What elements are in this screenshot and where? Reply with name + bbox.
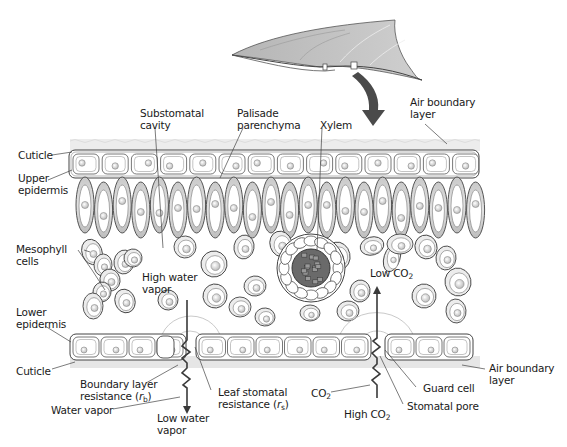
label-upper-epidermis: Upper epidermis (18, 172, 68, 196)
label-boundary-resistance-close: ) (148, 390, 152, 402)
lower-epidermis (70, 334, 473, 360)
label-air-boundary-top: Air boundary layer (410, 96, 475, 120)
label-palisade-line1: Palisade (237, 107, 279, 119)
label-leaf-stomatal-resistance: Leaf stomatal resistance (rs) (218, 386, 289, 410)
label-substomatal-cavity: Substomatal cavity (140, 107, 204, 131)
label-stomatal-resistance-line2: resistance ( (218, 398, 277, 410)
upper-air-boundary-layer (70, 139, 480, 151)
label-palisade-parenchyma: Palisade parenchyma (237, 107, 301, 131)
label-mesophyll-cells: Mesophyll cells (16, 243, 67, 267)
label-stomatal-pore: Stomatal pore (407, 400, 479, 412)
label-guard-cell: Guard cell (423, 382, 474, 394)
label-boundary-resistance-line1: Boundary layer (80, 378, 157, 390)
label-stomatal-resistance-line1: Leaf stomatal (218, 386, 287, 398)
palisade-parenchyma (76, 177, 485, 238)
label-low-water-line1: Low water (157, 412, 209, 424)
label-stomatal-resistance-close: ) (285, 398, 289, 410)
label-high-water-vapor: High water vapor (142, 271, 197, 295)
mesophyll-cells (78, 228, 473, 327)
label-high-water-line2: vapor (142, 283, 171, 295)
label-co2-subscript: 2 (326, 392, 331, 401)
label-substomatal-line1: Substomatal (140, 107, 204, 119)
label-substomatal-line2: cavity (140, 119, 170, 131)
zoom-arrow-icon (352, 72, 385, 126)
label-co2-text: CO (311, 387, 326, 399)
label-mesophyll-line2: cells (16, 255, 39, 267)
label-cuticle-bottom: Cuticle (16, 365, 51, 377)
label-low-co2-text: Low CO (370, 267, 408, 279)
label-air-boundary-bottom: Air boundary layer (489, 362, 554, 386)
label-mesophyll-line1: Mesophyll (16, 243, 67, 255)
label-water-vapor: Water vapor (51, 404, 113, 416)
co2-pathway (372, 290, 380, 398)
label-low-water-line2: vapor (157, 424, 186, 436)
label-xylem: Xylem (320, 119, 352, 131)
label-high-co2-subscript: 2 (386, 413, 391, 422)
label-air-boundary-bottom-line1: Air boundary (489, 362, 554, 374)
label-air-boundary-top-line2: layer (410, 108, 435, 120)
label-boundary-resistance-line2: resistance ( (80, 390, 139, 402)
label-upper-epidermis-line1: Upper (18, 172, 49, 184)
label-palisade-line2: parenchyma (237, 119, 301, 131)
label-low-co2-subscript: 2 (408, 272, 413, 281)
label-cuticle-top: Cuticle (18, 149, 53, 161)
label-high-co2: High CO2 (344, 408, 390, 420)
label-lower-epidermis: Lower epidermis (16, 306, 66, 330)
xylem-bundle (277, 234, 345, 302)
label-low-water-vapor: Low water vapor (157, 412, 209, 436)
upper-epidermis (69, 150, 479, 178)
label-high-co2-text: High CO (344, 408, 386, 420)
label-low-co2: Low CO2 (370, 267, 413, 279)
label-co2: CO2 (311, 387, 331, 399)
label-high-water-line1: High water (142, 271, 197, 283)
label-boundary-layer-resistance: Boundary layer resistance (rb) (80, 378, 157, 402)
leaf-icon (232, 20, 422, 80)
label-lower-epidermis-line2: epidermis (16, 318, 66, 330)
label-air-boundary-bottom-line2: layer (489, 374, 514, 386)
label-upper-epidermis-line2: epidermis (18, 184, 68, 196)
label-lower-epidermis-line1: Lower (16, 306, 46, 318)
label-air-boundary-top-line1: Air boundary (410, 96, 475, 108)
